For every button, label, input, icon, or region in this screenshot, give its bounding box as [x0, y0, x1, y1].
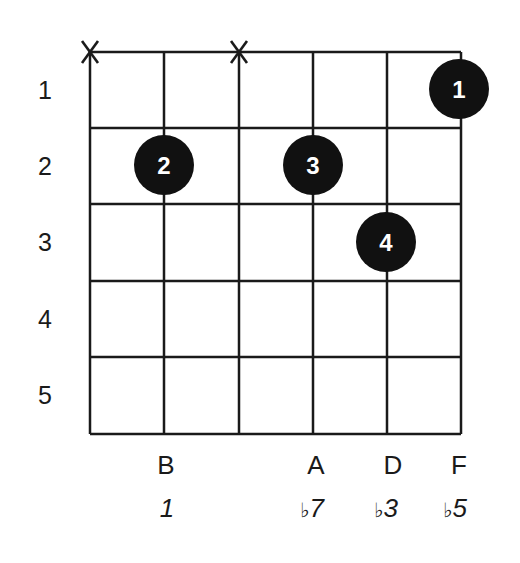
fret-number-3: 3: [38, 228, 52, 256]
finger-dot-4: 4: [356, 212, 416, 272]
finger-dot-2: 2: [134, 135, 194, 195]
note-name-string-6: F: [451, 450, 467, 480]
fret-number-1: 1: [38, 76, 52, 104]
note-names: B A D F: [157, 450, 467, 480]
note-name-string-4: A: [307, 450, 325, 480]
intervals: 1 ♭7 ♭3 ♭5: [160, 493, 468, 523]
finger-dot-1: 1: [429, 59, 489, 119]
interval-string-6: ♭5: [443, 493, 467, 523]
fret-numbers: 1 2 3 4 5: [38, 76, 52, 409]
fret-number-4: 4: [38, 305, 52, 333]
finger-label: 2: [157, 152, 170, 179]
finger-label: 4: [379, 229, 393, 256]
interval-string-4: ♭7: [300, 493, 325, 523]
finger-dots: 1 2 3 4: [134, 59, 489, 272]
chord-diagram: 1 2 3 4 5 1: [0, 0, 520, 563]
note-name-string-5: D: [384, 450, 403, 480]
interval-string-5: ♭3: [374, 493, 398, 523]
fret-number-2: 2: [38, 152, 52, 180]
fret-number-5: 5: [38, 381, 52, 409]
finger-label: 3: [306, 152, 319, 179]
note-name-string-2: B: [157, 450, 174, 480]
finger-label: 1: [452, 76, 465, 103]
finger-dot-3: 3: [283, 135, 343, 195]
interval-string-2: 1: [160, 493, 174, 523]
